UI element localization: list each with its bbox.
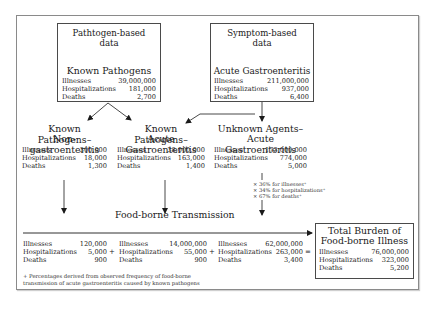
stat-value: 62,000,000 [265,240,303,248]
stat-value: 900 [94,256,107,264]
stat-row-hospitalizations: Hospitalizations323,000 [319,256,409,264]
unknown-acute-gastro-stats: Illnesses173,000,000 Hospitalizations774… [214,146,307,170]
stat-value: 211,000,000 [267,77,309,85]
plus-operator-1: + [109,248,115,256]
stat-row-deaths: Deaths6,400 [214,93,309,101]
stat-value: 6,400 [290,93,309,101]
stat-value: 300,000 [80,146,107,154]
stat-value: 18,000 [84,154,107,162]
stat-value: 3,400 [284,256,303,264]
known-non-gastro-node: Known Pathogens– Non-gastroenteritis Ill… [22,124,107,180]
pathogen-source-line-2: data [58,38,160,48]
stat-row-hospitalizations: Hospitalizations263,000 [218,248,303,256]
stat-value: 38,000,000 [167,146,205,154]
stat-value: 55,000 [184,248,207,256]
total-burden-stats: Illnesses76,000,000 Hospitalizations323,… [319,248,409,272]
foodborne-column-1: Illnesses120,000 Hospitalizations5,000 D… [23,240,107,264]
total-burden-box: Total Burden of Food-borne Illness Illne… [315,223,414,279]
unknown-acute-gastro-node: Unknown Agents– Acute Gastroenteritis Il… [214,124,307,174]
stat-label: Hospitalizations [319,256,373,264]
stat-label: Hospitalizations [22,154,76,162]
stat-row-illnesses: Illnesses211,000,000 [214,77,309,85]
stat-label: Deaths [214,162,237,170]
stat-label: Deaths [319,264,342,272]
stat-label: Illnesses [214,146,243,154]
stat-row-illnesses: Illnesses120,000 [23,240,107,248]
stat-value: 774,000 [280,154,307,162]
stat-label: Hospitalizations [117,154,171,162]
foodborne-column-3: Illnesses62,000,000 Hospitalizations263,… [218,240,303,264]
total-burden-title-2: Food-borne Illness [316,236,413,247]
stat-row-illnesses: Illnesses39,000,000 [62,77,156,85]
known-acute-gastro-stats: Illnesses38,000,000 Hospitalizations163,… [117,146,205,170]
stat-row-deaths: Deaths900 [119,256,207,264]
known-acute-gastro-node: Known Pathogens– Acute Gastroenteritis I… [117,124,205,180]
stat-label: Deaths [22,162,45,170]
stat-row-deaths: Deaths900 [23,256,107,264]
foodborne-column-2: Illnesses14,000,000 Hospitalizations55,0… [119,240,207,264]
stat-row-illnesses: Illnesses62,000,000 [218,240,303,248]
stat-label: Illnesses [119,240,148,248]
stat-row-illnesses: Illnesses300,000 [22,146,107,154]
pathogen-based-box: Pathtogen-based data Known Pathogens Ill… [57,23,161,102]
footnote-line-2: transmission of acute gastroenteritis ca… [23,280,200,287]
stat-row-hospitalizations: Hospitalizations18,000 [22,154,107,162]
foodborne-transmission-title: Food-borne Transmission [115,210,295,220]
stat-row-hospitalizations: Hospitalizations55,000 [119,248,207,256]
stat-row-illnesses: Illnesses76,000,000 [319,248,409,256]
stat-value: 76,000,000 [371,248,409,256]
stat-row-deaths: Deaths3,400 [218,256,303,264]
stat-row-deaths: Deaths1,300 [22,162,107,170]
symptom-source-line-1: Symptom-based [211,28,313,38]
stat-label: Illnesses [62,77,91,85]
stat-label: Deaths [117,162,140,170]
stat-row-hospitalizations: Hospitalizations163,000 [117,154,205,162]
stat-label: Illnesses [117,146,146,154]
stat-label: Deaths [23,256,46,264]
stat-label: Illnesses [218,240,247,248]
plus-operator-2: + [209,248,215,256]
stat-label: Illnesses [214,77,243,85]
symptom-based-box: Symptom-based data Acute Gastroenteritis… [210,23,314,102]
pathogen-source-line-1: Pathtogen-based [58,28,160,38]
stat-value: 5,000 [88,248,107,256]
stat-row-hospitalizations: Hospitalizations5,000 [23,248,107,256]
stat-value: 5,000 [288,162,307,170]
stat-value: 14,000,000 [169,240,207,248]
stat-label: Hospitalizations [119,248,173,256]
stat-label: Illnesses [23,240,52,248]
stat-label: Hospitalizations [214,85,268,93]
acute-gastroenteritis-title: Acute Gastroenteritis [211,66,313,77]
stat-value: 323,000 [382,256,409,264]
stat-value: 120,000 [80,240,107,248]
stat-row-hospitalizations: Hospitalizations181,000 [62,85,156,93]
stat-label: Illnesses [319,248,348,256]
stat-label: Deaths [214,93,237,101]
stat-label: Hospitalizations [62,85,116,93]
stat-label: Deaths [119,256,142,264]
stat-value: 2,700 [137,93,156,101]
stat-row-deaths: Deaths2,700 [62,93,156,101]
footnote: + Percentages derived from observed freq… [23,273,200,288]
stat-row-hospitalizations: Hospitalizations774,000 [214,154,307,162]
multiplier-deaths: × 67% for deaths⁺ [253,193,302,199]
stat-label: Hospitalizations [23,248,77,256]
stat-value: 163,000 [178,154,205,162]
stat-value: 39,000,000 [118,77,156,85]
stat-label: Hospitalizations [214,154,268,162]
footnote-line-1: + Percentages derived from observed freq… [23,273,200,280]
known-non-gastro-stats: Illnesses300,000 Hospitalizations18,000 … [22,146,107,170]
stat-row-illnesses: Illnesses173,000,000 [214,146,307,154]
acute-gastroenteritis-stats: Illnesses211,000,000 Hospitalizations937… [214,77,309,101]
stat-value: 1,300 [88,162,107,170]
stat-value: 263,000 [276,248,303,256]
stat-row-deaths: Deaths5,200 [319,264,409,272]
stat-value: 173,000,000 [265,146,307,154]
known-pathogens-title: Known Pathogens [58,66,160,77]
stat-row-hospitalizations: Hospitalizations937,000 [214,85,309,93]
stat-label: Deaths [218,256,241,264]
stat-label: Deaths [62,93,85,101]
stat-value: 5,200 [390,264,409,272]
known-pathogens-stats: Illnesses39,000,000 Hospitalizations181,… [62,77,156,101]
stat-row-deaths: Deaths5,000 [214,162,307,170]
